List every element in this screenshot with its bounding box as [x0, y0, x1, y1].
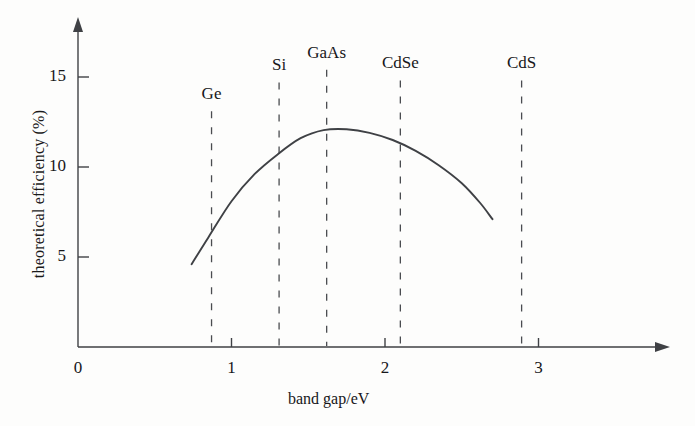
- figure-canvas: 012351015 GeSiGaAsCdSeCdS theoretical ef…: [0, 0, 695, 426]
- y-axis-title: theoretical efficiency (%): [30, 110, 48, 278]
- x-tick-label: 2: [365, 358, 405, 378]
- efficiency-curve: [192, 129, 493, 264]
- efficiency-curve-group: [192, 129, 493, 264]
- y-axis-arrow-icon: [73, 17, 83, 32]
- x-axis-arrow-icon: [655, 342, 670, 352]
- chart-plot: [0, 0, 695, 426]
- y-axis-title-wrap: theoretical efficiency (%): [30, 69, 48, 319]
- tick-marks-group: [78, 77, 539, 347]
- x-tick-label: 0: [58, 358, 98, 378]
- material-marker-label: CdSe: [355, 53, 445, 73]
- material-marker-label: CdS: [477, 53, 567, 73]
- x-tick-label: 3: [519, 358, 559, 378]
- material-marker-label: Ge: [167, 84, 257, 104]
- x-axis-title: band gap/eV: [288, 390, 369, 408]
- material-marker-lines-group: [212, 70, 522, 346]
- x-tick-label: 1: [212, 358, 252, 378]
